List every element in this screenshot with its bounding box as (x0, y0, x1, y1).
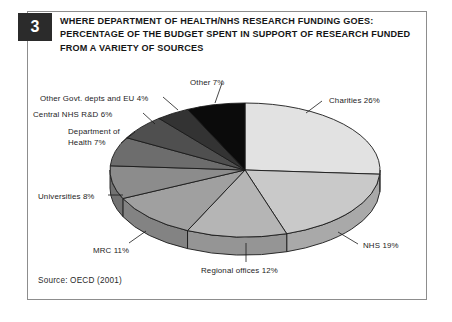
pie-slice-label: Other 7% (190, 78, 224, 89)
pie-slice-label-text: Central NHS R&D (33, 110, 98, 119)
leader-line (338, 232, 358, 244)
pie-slice-label-value: 26% (362, 96, 380, 105)
pie-slice-label-value: 11% (111, 246, 129, 255)
pie-slice-label-text: NHS (363, 241, 380, 250)
figure-title: WHERE DEPARTMENT OF HEALTH/NHS RESEARCH … (60, 15, 410, 55)
leader-line (129, 231, 146, 243)
pie-slice-label-text: Other Govt. depts and EU (40, 94, 134, 103)
pie-slice-label-text: Department of (68, 127, 120, 138)
source-note: Source: OECD (2001) (38, 276, 122, 285)
leader-line (143, 113, 155, 124)
figure-number-badge: 3 (18, 13, 52, 41)
pie-slice-label-value: 12% (259, 266, 277, 275)
pie-slice-label: MRC 11% (93, 246, 129, 257)
pie-slice-label-text: Other (190, 78, 210, 87)
pie-slice-label-value: 4% (134, 94, 148, 103)
figure-title-line-2: PERCENTAGE OF THE BUDGET SPENT IN SUPPOR… (60, 28, 410, 41)
pie-slice-label-value: Health 7% (68, 138, 120, 149)
pie-slice-label: Charities 26% (329, 96, 380, 107)
figure-title-line-1: WHERE DEPARTMENT OF HEALTH/NHS RESEARCH … (60, 15, 410, 28)
pie-slice[interactable] (245, 103, 380, 174)
figure-panel: 3 WHERE DEPARTMENT OF HEALTH/NHS RESEARC… (0, 0, 452, 322)
pie-slice-label: Other Govt. depts and EU 4% (40, 94, 148, 105)
pie-slice-label: NHS 19% (363, 241, 399, 252)
pie-slice-label-text: Universities (38, 192, 81, 201)
pie-slice-label-value: 7% (210, 78, 224, 87)
pie-slice-label-text: MRC (93, 246, 111, 255)
leader-line (306, 101, 322, 113)
pie-slice-label-text: Charities (329, 96, 362, 105)
pie-slice-label-value: 8% (81, 192, 95, 201)
leader-line (163, 97, 178, 110)
pie-slice-label: Universities 8% (38, 192, 95, 203)
pie-top-slices (110, 103, 380, 237)
figure-title-line-3: FROM A VARIETY OF SOURCES (60, 42, 410, 55)
pie-slice-label: Regional offices 12% (201, 266, 278, 277)
pie-slice-label-value: 6% (98, 110, 112, 119)
pie-slice-label-text: Regional offices (201, 266, 259, 275)
pie-slice-label-value: 19% (380, 241, 398, 250)
pie-slice-label: Department ofHealth 7% (68, 127, 120, 148)
pie-slice-label: Central NHS R&D 6% (33, 110, 112, 121)
